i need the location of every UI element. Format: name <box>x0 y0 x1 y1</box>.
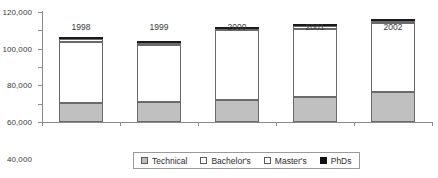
bar-segment-bachelors <box>215 30 259 101</box>
x-axis-tick <box>432 122 433 126</box>
y-axis-tick-label: 120,000 <box>2 8 32 17</box>
legend-item-masters[interactable]: Master's <box>264 156 307 166</box>
x-axis-tick <box>120 122 121 126</box>
y-axis-tick: 120,000 <box>38 12 42 13</box>
y-axis-tick-label: 60,000 <box>7 118 32 127</box>
bar-2001 <box>293 25 337 122</box>
legend-label: Bachelor's <box>211 156 250 166</box>
legend-label: Technical <box>152 156 187 166</box>
y-axis-tick: 100,000 <box>38 30 42 31</box>
bar-segment-phds <box>371 19 415 21</box>
bar-segment-technical <box>59 103 103 122</box>
legend-swatch-icon-masters <box>264 157 271 164</box>
x-axis-tick <box>354 122 355 126</box>
plot-area: 020,00040,00060,00080,000100,000120,0001… <box>42 12 432 122</box>
x-axis-tick <box>276 122 277 126</box>
y-axis-tick: 20,000 <box>38 104 42 105</box>
y-axis-tick-label: 80,000 <box>7 81 32 90</box>
legend-swatch-icon-technical <box>141 157 148 164</box>
legend-item-phds[interactable]: PhDs <box>320 156 352 166</box>
legend-swatch-icon-bachelors <box>200 157 207 164</box>
legend-label: Master's <box>275 156 307 166</box>
x-axis-label-2001: 2001 <box>306 22 325 32</box>
chart-legend: TechnicalBachelor'sMaster'sPhDs <box>133 152 360 169</box>
bar-segment-technical <box>371 92 415 122</box>
bar-1998 <box>59 38 103 122</box>
x-axis-tick <box>42 122 43 126</box>
y-axis-tick: 40,000 <box>38 85 42 86</box>
legend-item-bachelors[interactable]: Bachelor's <box>200 156 250 166</box>
legend-label: PhDs <box>331 156 352 166</box>
bar-segment-bachelors <box>371 23 415 93</box>
x-axis-tick <box>198 122 199 126</box>
bar-segment-bachelors <box>59 42 103 103</box>
bar-2000 <box>215 29 259 123</box>
bar-segment-technical <box>215 100 259 122</box>
y-axis-tick: 60,000 <box>38 67 42 68</box>
bar-2002 <box>371 21 415 122</box>
bar-segment-bachelors <box>137 45 181 102</box>
y-axis-tick-label: 100,000 <box>2 44 32 53</box>
bar-segment-technical <box>137 102 181 122</box>
bar-segment-masters <box>137 43 181 45</box>
bar-segment-bachelors <box>293 29 337 98</box>
bar-segment-phds <box>137 41 181 43</box>
bar-segment-phds <box>59 37 103 39</box>
x-axis-label-2002: 2002 <box>384 22 403 32</box>
stacked-bar-chart: 020,00040,00060,00080,000100,000120,0001… <box>0 0 438 178</box>
bar-segment-technical <box>293 97 337 122</box>
x-axis-label-1998: 1998 <box>72 22 91 32</box>
y-axis-tick-label: 40,000 <box>7 154 32 163</box>
x-axis-label-1999: 1999 <box>150 22 169 32</box>
legend-swatch-icon-phds <box>320 157 327 164</box>
legend-item-technical[interactable]: Technical <box>141 156 187 166</box>
bar-segment-masters <box>59 39 103 42</box>
y-axis-tick: 80,000 <box>38 49 42 50</box>
bar-1999 <box>137 43 181 122</box>
x-axis <box>42 122 433 123</box>
x-axis-label-2000: 2000 <box>228 22 247 32</box>
